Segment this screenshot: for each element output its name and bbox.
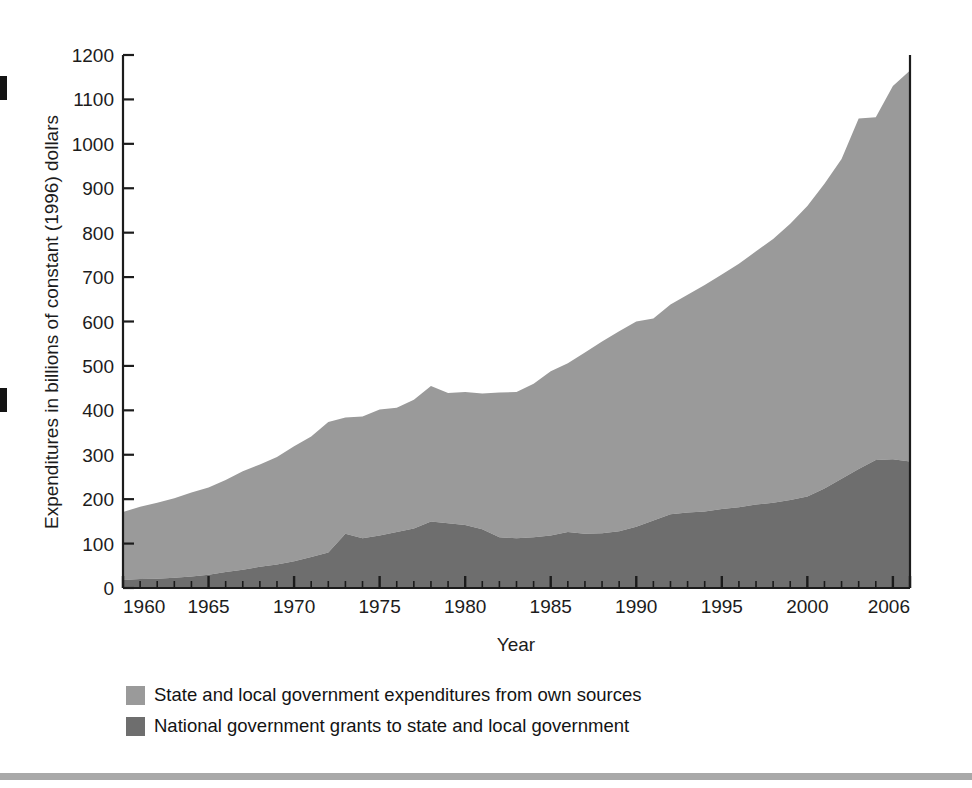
y-tick-label: 400 (82, 400, 114, 421)
x-tick-label: 1975 (358, 596, 400, 617)
legend-swatch-national-grants (126, 717, 145, 736)
x-axis-title: Year (497, 634, 536, 655)
chart-legend: State and local government expenditures … (126, 683, 641, 738)
legend-label-state-local: State and local government expenditures … (154, 685, 641, 705)
footer-rule (0, 773, 972, 780)
plot-area: 0100200300400500600700800900100011001200… (0, 0, 972, 788)
y-tick-label: 600 (82, 312, 114, 333)
legend-swatch-state-local (126, 686, 145, 705)
x-tick-label: 1985 (530, 596, 572, 617)
y-tick-label: 1100 (73, 89, 114, 110)
y-tick-label: 0 (103, 578, 114, 599)
y-axis-title: Expenditures in billions of constant (19… (41, 115, 62, 529)
x-tick-label: 1960 (123, 596, 165, 617)
figure-container: 0100200300400500600700800900100011001200… (0, 0, 972, 788)
legend-item-national-grants: National government grants to state and … (126, 714, 641, 738)
y-tick-label: 500 (82, 356, 114, 377)
area-series-layers (123, 71, 910, 588)
legend-item-state-local: State and local government expenditures … (126, 683, 641, 707)
legend-label-national-grants: National government grants to state and … (154, 716, 629, 736)
y-tick-label: 1200 (72, 45, 114, 66)
y-tick-label: 900 (82, 178, 114, 199)
y-tick-label: 700 (82, 267, 114, 288)
y-tick-label: 800 (82, 223, 114, 244)
x-tick-label: 1970 (273, 596, 315, 617)
y-tick-label: 300 (82, 445, 114, 466)
y-tick-label: 1000 (72, 134, 114, 155)
x-tick-label: 1995 (701, 596, 743, 617)
x-tick-label: 1990 (615, 596, 657, 617)
x-tick-label: 1965 (187, 596, 229, 617)
x-tick-label: 1980 (444, 596, 486, 617)
stacked-area-chart: 0100200300400500600700800900100011001200… (0, 0, 972, 788)
x-tick-label: 2006 (868, 596, 910, 617)
y-tick-label: 200 (82, 489, 114, 510)
x-tick-label: 2000 (786, 596, 828, 617)
y-tick-label: 100 (82, 534, 114, 555)
